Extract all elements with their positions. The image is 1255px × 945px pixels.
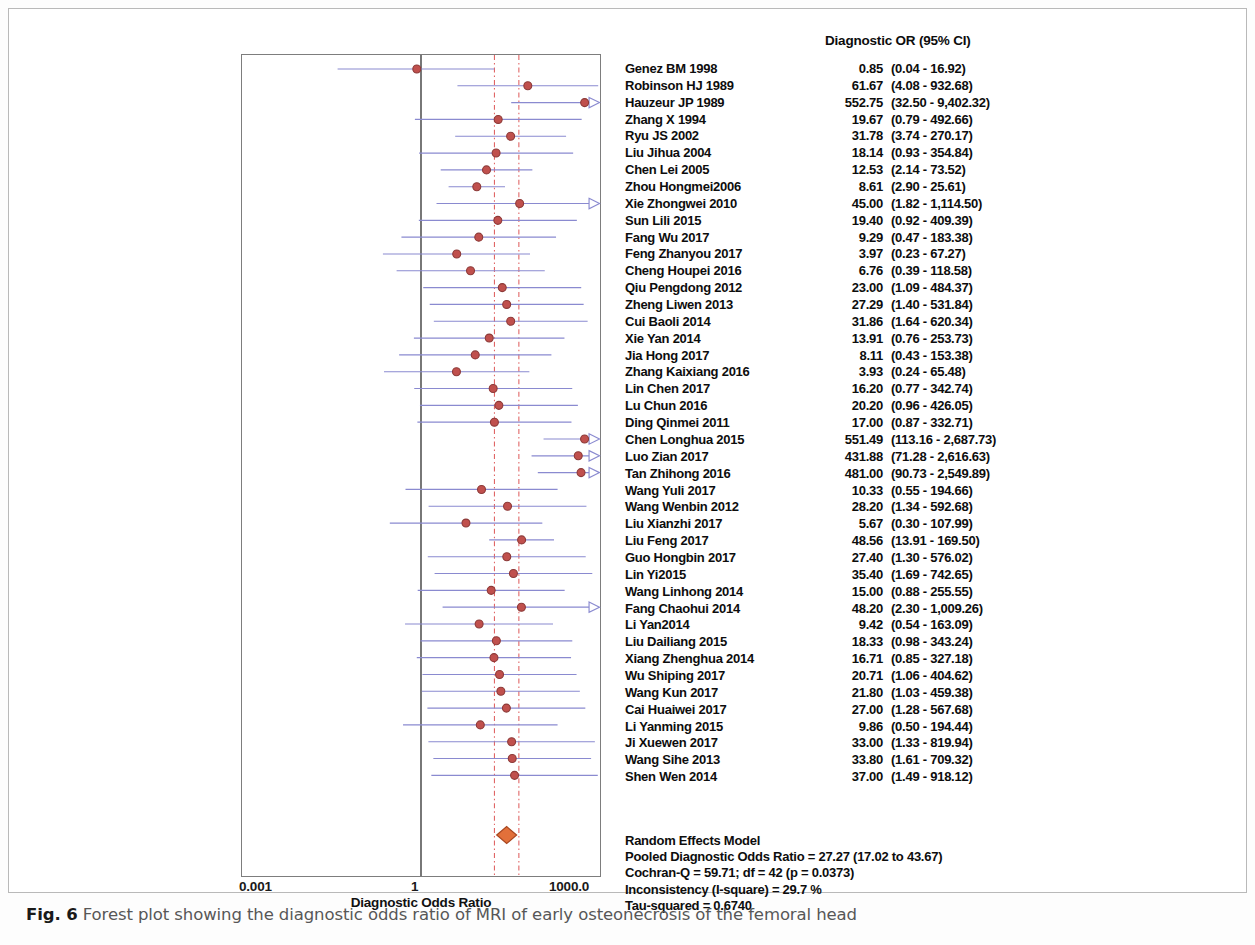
study-point-estimate-marker <box>487 586 495 594</box>
study-point-estimate-marker <box>467 267 475 275</box>
study-point-estimate-marker <box>508 738 516 746</box>
study-odds-ratio: 13.91 <box>825 331 883 346</box>
study-confidence-interval: (0.43 - 153.38) <box>891 348 973 363</box>
study-point-estimate-marker <box>476 721 484 729</box>
study-odds-ratio: 16.71 <box>825 651 883 666</box>
forest-row <box>422 687 580 695</box>
study-point-estimate-marker <box>452 368 460 376</box>
study-point-estimate-marker <box>502 704 510 712</box>
study-point-estimate-marker <box>473 183 481 191</box>
forest-row <box>437 198 600 208</box>
figure-page: 0.001 1 1000.0 Diagnostic Odds Ratio Dia… <box>0 0 1255 945</box>
study-name: Chen Longhua 2015 <box>625 432 744 447</box>
forest-row <box>427 704 585 712</box>
study-point-estimate-marker <box>497 687 505 695</box>
study-name: Wang Sihe 2013 <box>625 752 720 767</box>
forest-row <box>383 250 530 258</box>
study-odds-ratio: 9.29 <box>825 230 883 245</box>
figure-frame: 0.001 1 1000.0 Diagnostic Odds Ratio Dia… <box>8 8 1247 893</box>
study-odds-ratio: 552.75 <box>825 95 883 110</box>
forest-row <box>403 721 558 729</box>
study-name: Lin Chen 2017 <box>625 381 710 396</box>
study-odds-ratio: 5.67 <box>825 516 883 531</box>
summary-pooled-dor: Pooled Diagnostic Odds Ratio = 27.27 (17… <box>625 849 942 865</box>
forest-row <box>420 637 572 645</box>
study-odds-ratio: 0.85 <box>825 61 883 76</box>
study-point-estimate-marker <box>574 452 582 460</box>
study-confidence-interval: (2.30 - 1,009.26) <box>891 601 983 616</box>
study-odds-ratio: 19.40 <box>825 213 883 228</box>
table-row: Lin Chen 201716.20(0.77 - 342.74) <box>625 381 1095 398</box>
table-row: Chen Lei 200512.53(2.14 - 73.52) <box>625 162 1095 179</box>
summary-statistics: Random Effects Model Pooled Diagnostic O… <box>625 833 942 914</box>
study-name: Wang Linhong 2014 <box>625 584 743 599</box>
study-odds-ratio: 20.71 <box>825 668 883 683</box>
study-odds-ratio: 8.61 <box>825 179 883 194</box>
table-row: Robinson HJ 198961.67(4.08 - 932.68) <box>625 78 1095 95</box>
forest-plot-canvas <box>242 55 600 876</box>
study-confidence-interval: (0.54 - 163.09) <box>891 617 973 632</box>
study-point-estimate-marker <box>503 553 511 561</box>
study-point-estimate-marker <box>453 250 461 258</box>
study-odds-ratio: 23.00 <box>825 280 883 295</box>
table-row: Liu Xianzhi 20175.67(0.30 - 107.99) <box>625 516 1095 533</box>
forest-row <box>457 82 598 90</box>
study-name: Wang Wenbin 2012 <box>625 499 739 514</box>
table-row: Ding Qinmei 201117.00(0.87 - 332.71) <box>625 415 1095 432</box>
study-confidence-interval: (1.69 - 742.65) <box>891 567 973 582</box>
study-confidence-interval: (0.47 - 183.38) <box>891 230 973 245</box>
table-row: Shen Wen 201437.00(1.49 - 918.12) <box>625 769 1095 786</box>
forest-row <box>434 317 588 325</box>
study-odds-ratio: 20.20 <box>825 398 883 413</box>
forest-row <box>390 519 543 527</box>
study-point-estimate-marker <box>516 200 524 208</box>
study-odds-ratio: 27.40 <box>825 550 883 565</box>
study-point-estimate-marker <box>492 149 500 157</box>
table-row: Fang Chaohui 201448.20(2.30 - 1,009.26) <box>625 601 1095 618</box>
study-odds-ratio: 551.49 <box>825 432 883 447</box>
study-name: Sun Lili 2015 <box>625 213 701 228</box>
study-point-estimate-marker <box>508 755 516 763</box>
study-confidence-interval: (0.93 - 354.84) <box>891 145 973 160</box>
study-point-estimate-marker <box>494 216 502 224</box>
study-point-estimate-marker <box>507 317 515 325</box>
study-confidence-interval: (0.87 - 332.71) <box>891 415 973 430</box>
study-odds-ratio: 21.80 <box>825 685 883 700</box>
study-point-estimate-marker <box>581 435 589 443</box>
study-point-estimate-marker <box>495 401 503 409</box>
study-odds-ratio: 9.42 <box>825 617 883 632</box>
study-point-estimate-marker <box>517 603 525 611</box>
table-row: Jia Hong 20178.11(0.43 - 153.38) <box>625 348 1095 365</box>
forest-row <box>401 233 556 241</box>
forest-row <box>430 300 584 308</box>
forest-row <box>532 451 600 461</box>
table-row: Fang Wu 20179.29(0.47 - 183.38) <box>625 230 1095 247</box>
study-point-estimate-marker <box>503 300 511 308</box>
study-confidence-interval: (1.33 - 819.94) <box>891 735 973 750</box>
study-name: Feng Zhanyou 2017 <box>625 246 742 261</box>
study-odds-ratio: 481.00 <box>825 466 883 481</box>
study-odds-ratio: 16.20 <box>825 381 883 396</box>
study-odds-ratio: 35.40 <box>825 567 883 582</box>
study-point-estimate-marker <box>524 82 532 90</box>
study-confidence-interval: (1.09 - 484.37) <box>891 280 973 295</box>
study-name: Fang Wu 2017 <box>625 230 709 245</box>
study-point-estimate-marker <box>511 771 519 779</box>
forest-row <box>399 351 551 359</box>
study-name: Lin Yi2015 <box>625 567 686 582</box>
forest-row <box>489 536 554 544</box>
table-row: Cai Huaiwei 201727.00(1.28 - 567.68) <box>625 702 1095 719</box>
table-row: Wang Kun 201721.80(1.03 - 459.38) <box>625 685 1095 702</box>
study-point-estimate-marker <box>462 519 470 527</box>
ci-truncated-arrow <box>589 602 599 612</box>
table-row: Wu Shiping 201720.71(1.06 - 404.62) <box>625 668 1095 685</box>
study-name: Cai Huaiwei 2017 <box>625 702 727 717</box>
forest-row <box>443 602 600 612</box>
study-point-estimate-marker <box>478 485 486 493</box>
study-name: Lu Chun 2016 <box>625 398 707 413</box>
study-confidence-interval: (0.55 - 194.66) <box>891 483 973 498</box>
study-odds-ratio: 45.00 <box>825 196 883 211</box>
table-row: Cheng Houpei 20166.76(0.39 - 118.58) <box>625 263 1095 280</box>
axis-tick-one: 1 <box>411 879 418 894</box>
study-name: Qiu Pengdong 2012 <box>625 280 742 295</box>
